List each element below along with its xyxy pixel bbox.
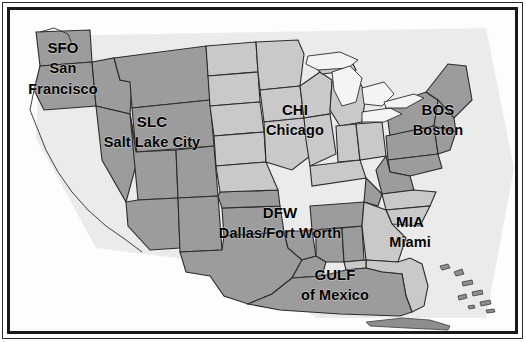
label-slc: SLC Salt Lake City [104, 114, 201, 150]
label-sfo: SFO San Francisco [28, 40, 97, 96]
label-slc-name: Salt Lake City [104, 135, 201, 150]
label-sfo-name-line2: Francisco [28, 82, 97, 97]
label-sfo-name-line1: San [28, 61, 97, 76]
label-mia: MIA Miami [389, 214, 431, 250]
label-chi-code: CHI [266, 102, 324, 117]
label-mia-code: MIA [389, 214, 431, 229]
label-gulf-code: GULF [301, 267, 369, 282]
label-chi-name: Chicago [266, 123, 324, 138]
label-bos-name: Boston [413, 123, 464, 138]
label-gulf: GULF of Mexico [301, 267, 369, 303]
label-dfw-name: Dallas/Fort Worth [219, 226, 341, 241]
label-bos-code: BOS [413, 102, 464, 117]
label-dfw: DFW Dallas/Fort Worth [219, 205, 341, 241]
label-slc-code: SLC [104, 114, 201, 129]
label-chi: CHI Chicago [266, 102, 324, 138]
label-dfw-code: DFW [219, 205, 341, 220]
map-screenshot: .hi { fill:#9c9c9c; stroke:#2b2b2b; stro… [0, 0, 526, 342]
label-mia-name: Miami [389, 235, 431, 250]
label-bos: BOS Boston [413, 102, 464, 138]
label-sfo-code: SFO [28, 40, 97, 55]
label-gulf-name: of Mexico [301, 288, 369, 303]
